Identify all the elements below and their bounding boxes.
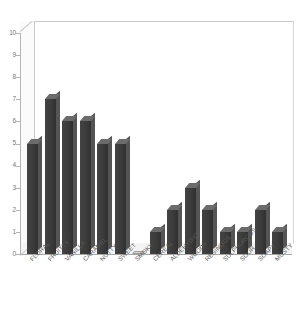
bar-side-face [73, 113, 77, 249]
bar-side-face [91, 113, 95, 249]
bar-side-face [126, 135, 130, 249]
bar-chart-3d: 012345678910 FLORALFRUITTYVANILLACARAMEL… [0, 0, 302, 311]
bar-front-face [62, 121, 73, 254]
bar-floral[interactable] [27, 144, 38, 255]
bar-caramel[interactable] [80, 121, 91, 254]
bar-sweet[interactable] [115, 144, 126, 255]
bars-layer [0, 0, 302, 311]
bar-fruitty[interactable] [45, 99, 56, 254]
bar-side-face [38, 135, 42, 249]
bar-front-face [115, 144, 126, 255]
bar-side-face [108, 135, 112, 249]
bar-vanilla[interactable] [62, 121, 73, 254]
bar-front-face [80, 121, 91, 254]
bar-front-face [27, 144, 38, 255]
bar-front-face [45, 99, 56, 254]
bar-side-face [56, 91, 60, 249]
